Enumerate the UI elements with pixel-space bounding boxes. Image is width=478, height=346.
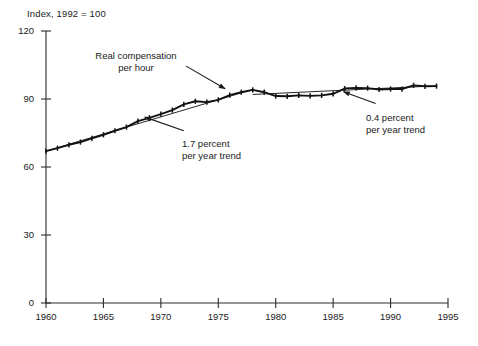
annotation-trend-1-7-percent: 1.7 percent per year trend: [182, 138, 280, 161]
annotation-real-compensation: Real compensation per hour: [84, 50, 188, 73]
chart-figure: Index, 1992 = 100 120 90 60 30 0 1960 19…: [0, 0, 478, 346]
annotation-trend-0-4-percent: 0.4 percent per year trend: [366, 112, 462, 135]
annotation-arrows: [145, 66, 376, 131]
chart-plot-area: [0, 0, 478, 346]
